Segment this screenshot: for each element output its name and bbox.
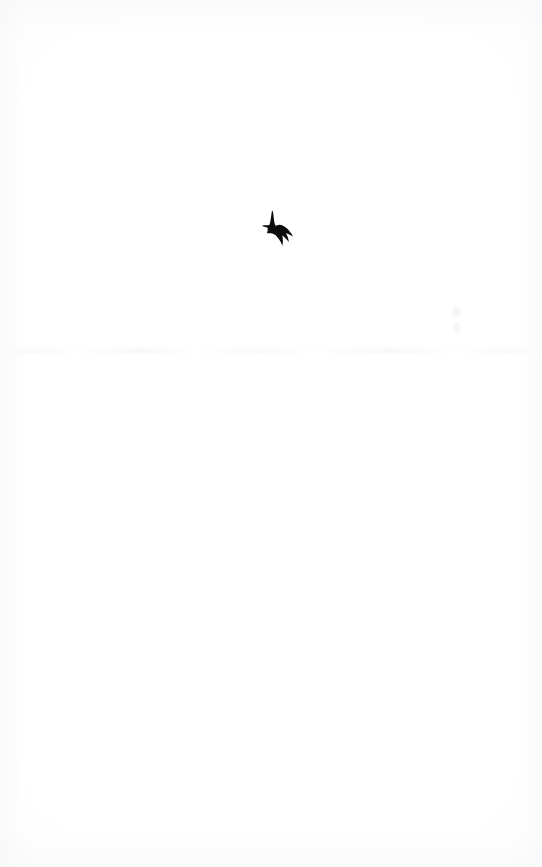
faint-speck-lower	[453, 322, 461, 333]
bird-silhouette	[262, 210, 293, 247]
horizontal-smudge-band	[0, 347, 542, 354]
faint-speck-upper	[452, 307, 461, 317]
paper-texture-overlay	[0, 0, 542, 867]
image-canvas	[0, 0, 542, 867]
